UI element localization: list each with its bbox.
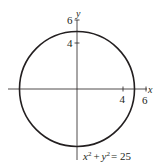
x-axis-label: x [147,84,153,95]
eq-plus: + [93,150,99,162]
circle-diagram: 4 6 4 6 x y x2+y2= 25 [0,0,159,168]
eq-equals: = 25 [111,150,131,162]
eq-x-exp: 2 [88,150,92,158]
x-tick-label-4: 4 [120,93,126,105]
y-axis-label: y [75,8,81,19]
eq-y-exp: 2 [107,150,111,158]
equation-label: x2+y2= 25 [82,150,131,162]
x-tick-label-6: 6 [142,94,148,106]
y-tick-label-6: 6 [67,14,73,26]
y-tick-label-4: 4 [67,37,73,49]
